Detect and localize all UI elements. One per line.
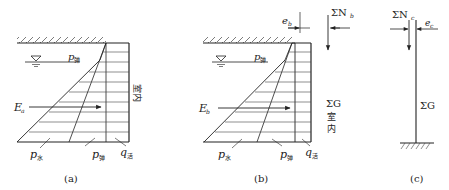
svg-text:弹: 弹 (99, 154, 105, 162)
svg-text:c: c (411, 14, 415, 21)
svg-text:a: a (21, 107, 25, 114)
svg-text:b: b (288, 20, 292, 27)
ground-hatch (17, 37, 106, 43)
axial-load-label: ΣN (392, 9, 408, 20)
svg-text:室: 室 (327, 111, 336, 122)
pressure-grid (215, 52, 311, 132)
svg-text:内: 内 (327, 123, 336, 134)
svg-text:水: 水 (225, 154, 231, 161)
svg-text:ΣG: ΣG (420, 100, 435, 111)
svg-text:b: b (206, 108, 210, 115)
svg-text:p: p (218, 148, 225, 161)
caption-b: (b) (254, 173, 268, 184)
figure-a: p 弹 E a p 水 p 弹 q 活 室内 (a) (13, 37, 143, 184)
caption-c: (c) (410, 173, 424, 184)
svg-text:p: p (280, 148, 287, 161)
svg-text:水: 水 (37, 154, 43, 161)
svg-text:c: c (430, 22, 434, 29)
svg-text:q: q (120, 146, 127, 159)
support-hatch (401, 143, 430, 149)
svg-text:活: 活 (312, 152, 318, 160)
svg-text:弹: 弹 (260, 56, 266, 64)
svg-text:p: p (30, 148, 37, 161)
svg-text:b: b (350, 12, 354, 19)
pressure-grid (29, 52, 129, 132)
side-text: 室内 (132, 84, 143, 102)
ground-hatch (203, 37, 292, 43)
svg-text:q: q (305, 146, 312, 159)
diagram-canvas: p 弹 E a p 水 p 弹 q 活 室内 (a) (0, 0, 449, 190)
water-pressure-line (17, 60, 100, 142)
axial-load-label: ΣN (331, 7, 347, 18)
svg-text:活: 活 (127, 152, 133, 160)
figure-c: ΣN c e c ΣG (c) (390, 9, 438, 184)
svg-text:弹: 弹 (287, 154, 293, 162)
caption-a: (a) (64, 173, 78, 184)
svg-text:p: p (92, 148, 99, 161)
svg-text:ΣG: ΣG (326, 98, 341, 109)
svg-text:弹: 弹 (74, 56, 80, 64)
figure-b: p 弹 E b p 水 p 弹 q 活 e b ΣN b ΣG 室 内 (b) (198, 7, 354, 184)
